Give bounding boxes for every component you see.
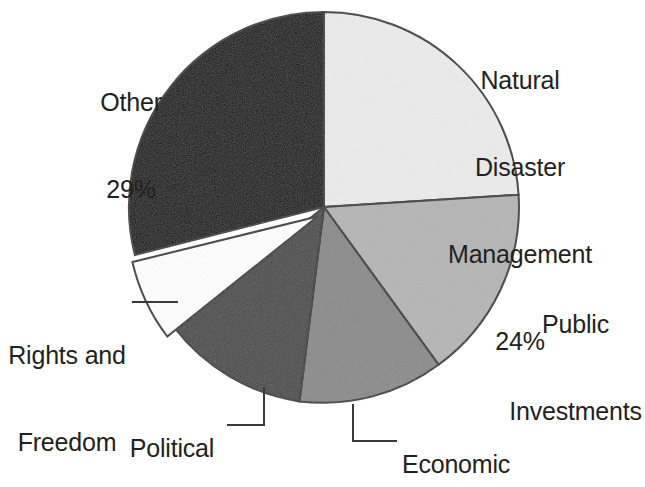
slice-label-line: Public	[506, 310, 645, 339]
pie-chart: Natural Disaster Management 24% Public I…	[0, 0, 645, 487]
slice-label-line: Rights and	[2, 341, 132, 370]
slice-label-line: Freedom	[2, 428, 132, 457]
slice-label-other: Other 29%	[72, 30, 190, 262]
slice-label-line: Disaster	[398, 153, 642, 182]
slice-label-line: Other	[72, 88, 190, 117]
slice-value: 29%	[72, 175, 190, 204]
slice-label-economic-policies: Economic Policies 12%	[376, 392, 536, 487]
slice-label-rights-and-freedom: Rights and Freedom 7%	[2, 283, 132, 487]
slice-label-line: Economic	[376, 450, 536, 479]
slice-label-line: Natural	[398, 66, 642, 95]
